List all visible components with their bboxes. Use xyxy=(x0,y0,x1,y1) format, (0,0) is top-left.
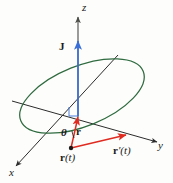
orbit-point-label-arg: (t) xyxy=(65,151,75,163)
right-angle-marker xyxy=(69,107,78,116)
vector-diagram-figure: z x y J r θ r(t) r′(t) xyxy=(0,0,173,183)
velocity-vector-label: r′(t) xyxy=(113,145,131,156)
orbit-point-label: r(t) xyxy=(60,152,75,163)
z-axis-label: z xyxy=(82,2,86,13)
orbit-point-marker xyxy=(69,146,73,150)
y-axis-line xyxy=(12,101,157,142)
theta-angle-label: θ xyxy=(61,127,67,138)
velocity-vector-label-arg: ′(t) xyxy=(118,144,131,156)
y-axis-label: y xyxy=(158,140,163,151)
diagram-canvas xyxy=(0,0,173,183)
angular-momentum-label: J xyxy=(59,41,65,52)
orbit-ellipse xyxy=(10,43,155,148)
x-axis-line xyxy=(16,55,118,166)
position-vector-label: r xyxy=(76,126,81,137)
x-axis-label: x xyxy=(9,167,14,178)
